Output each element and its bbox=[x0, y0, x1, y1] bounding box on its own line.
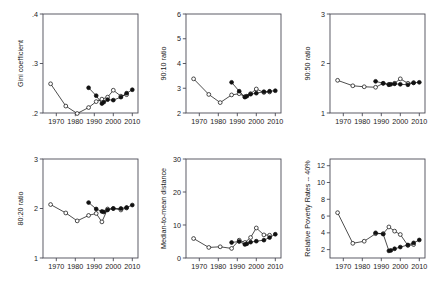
data-point-filled-circle-series bbox=[381, 81, 385, 85]
y-tick-label: 30 bbox=[173, 155, 181, 164]
data-point-filled-circle-series bbox=[102, 210, 106, 214]
data-point-filled-circle-series bbox=[262, 90, 266, 94]
y-tick-label: 3 bbox=[321, 10, 325, 19]
x-tick-label: 1990 bbox=[86, 262, 102, 271]
x-tick-label: 1980 bbox=[211, 117, 227, 126]
series-line-open-circle-series bbox=[337, 213, 413, 246]
data-point-filled-circle-series bbox=[245, 242, 249, 246]
y-tick-label: 12 bbox=[317, 161, 325, 170]
y-tick-label: 20 bbox=[173, 188, 181, 197]
x-tick-label: 1970 bbox=[192, 117, 208, 126]
data-point-filled-circle-series bbox=[411, 81, 415, 85]
data-point-open-circle-series bbox=[219, 245, 223, 249]
data-point-open-circle-series bbox=[335, 78, 339, 82]
y-axis-title: Relative Poverty Rates -- 40% bbox=[303, 160, 312, 257]
data-point-filled-circle-series bbox=[268, 236, 272, 240]
x-tick-label: 1970 bbox=[48, 117, 64, 126]
y-tick-label: 10 bbox=[317, 178, 325, 187]
x-tick-label: 2010 bbox=[411, 262, 427, 271]
x-tick-label: 2010 bbox=[124, 117, 140, 126]
data-point-filled-circle-series bbox=[111, 207, 115, 211]
data-point-filled-circle-series bbox=[119, 207, 123, 211]
data-point-filled-circle-series bbox=[102, 100, 106, 104]
y-tick-label: 2 bbox=[321, 245, 325, 254]
x-tick-label: 2010 bbox=[124, 262, 140, 271]
data-point-open-circle-series bbox=[249, 236, 253, 240]
data-point-filled-circle-series bbox=[389, 82, 393, 86]
data-point-open-circle-series bbox=[262, 233, 266, 237]
data-point-open-circle-series bbox=[387, 225, 391, 229]
x-tick-label: 1980 bbox=[354, 262, 370, 271]
x-tick-label: 2000 bbox=[392, 117, 408, 126]
data-point-filled-circle-series bbox=[274, 232, 278, 236]
data-point-filled-circle-series bbox=[94, 94, 98, 98]
data-point-filled-circle-series bbox=[249, 92, 253, 96]
data-point-filled-circle-series bbox=[111, 98, 115, 102]
data-point-filled-circle-series bbox=[87, 201, 91, 205]
data-point-open-circle-series bbox=[351, 241, 355, 245]
data-point-open-circle-series bbox=[64, 104, 68, 108]
data-point-filled-circle-series bbox=[392, 82, 396, 86]
y-tick-label: 8 bbox=[321, 195, 325, 204]
data-point-filled-circle-series bbox=[262, 238, 266, 242]
y-tick-label: 2 bbox=[34, 204, 38, 213]
data-point-open-circle-series bbox=[192, 237, 196, 241]
data-point-open-circle-series bbox=[111, 88, 115, 92]
data-point-filled-circle-series bbox=[255, 239, 259, 243]
data-point-open-circle-series bbox=[49, 203, 53, 207]
data-point-open-circle-series bbox=[49, 82, 53, 86]
data-point-filled-circle-series bbox=[230, 80, 234, 84]
data-point-open-circle-series bbox=[87, 106, 91, 110]
data-point-open-circle-series bbox=[398, 233, 402, 237]
x-tick-label: 2000 bbox=[249, 262, 265, 271]
data-point-filled-circle-series bbox=[381, 232, 385, 236]
data-point-filled-circle-series bbox=[268, 89, 272, 93]
data-point-filled-circle-series bbox=[249, 240, 253, 244]
data-point-open-circle-series bbox=[230, 247, 234, 251]
x-tick-label: 1990 bbox=[230, 117, 246, 126]
y-tick-label: 6 bbox=[321, 212, 325, 221]
y-tick-label: 1 bbox=[321, 109, 325, 118]
data-point-filled-circle-series bbox=[125, 91, 129, 95]
data-point-filled-circle-series bbox=[130, 203, 134, 207]
y-tick-label: .3 bbox=[32, 59, 38, 68]
x-tick-label: 1990 bbox=[230, 262, 246, 271]
data-point-filled-circle-series bbox=[398, 82, 402, 86]
data-point-filled-circle-series bbox=[274, 89, 278, 93]
data-point-open-circle-series bbox=[75, 112, 79, 116]
y-axis-title: Median-to-mean distance bbox=[159, 168, 168, 249]
data-point-filled-circle-series bbox=[406, 243, 410, 247]
x-tick-label: 2000 bbox=[105, 262, 121, 271]
data-point-open-circle-series bbox=[207, 93, 211, 97]
data-point-filled-circle-series bbox=[238, 240, 242, 244]
data-point-open-circle-series bbox=[398, 77, 402, 81]
chart-panel-top-middle: 234561970198019902000201090:10 ratio bbox=[143, 0, 286, 145]
plot-frame bbox=[43, 14, 138, 113]
x-tick-label: 1970 bbox=[48, 262, 64, 271]
x-tick-label: 2000 bbox=[392, 262, 408, 271]
x-tick-label: 1970 bbox=[192, 262, 208, 271]
x-tick-label: 1980 bbox=[67, 262, 83, 271]
y-tick-label: 2 bbox=[177, 109, 181, 118]
y-tick-label: 0 bbox=[177, 254, 181, 263]
x-tick-label: 1980 bbox=[354, 117, 370, 126]
data-point-filled-circle-series bbox=[389, 249, 393, 253]
y-tick-label: 3 bbox=[177, 84, 181, 93]
data-point-filled-circle-series bbox=[373, 231, 377, 235]
data-point-open-circle-series bbox=[87, 214, 91, 218]
data-point-open-circle-series bbox=[351, 84, 355, 88]
x-tick-label: 2010 bbox=[268, 117, 284, 126]
y-axis-title: 90:50 ratio bbox=[303, 47, 312, 81]
data-point-open-circle-series bbox=[255, 87, 259, 91]
chart-panel-bottom-left: 1231970198019902000201080:20 ratio bbox=[0, 145, 143, 290]
x-tick-label: 1970 bbox=[335, 117, 351, 126]
data-point-filled-circle-series bbox=[119, 95, 123, 99]
data-point-open-circle-series bbox=[362, 85, 366, 89]
data-point-open-circle-series bbox=[255, 226, 259, 230]
y-tick-label: 4 bbox=[177, 59, 181, 68]
data-point-open-circle-series bbox=[219, 101, 223, 105]
data-point-open-circle-series bbox=[362, 239, 366, 243]
data-point-filled-circle-series bbox=[230, 241, 234, 245]
data-point-filled-circle-series bbox=[106, 208, 110, 212]
data-point-filled-circle-series bbox=[238, 89, 242, 93]
